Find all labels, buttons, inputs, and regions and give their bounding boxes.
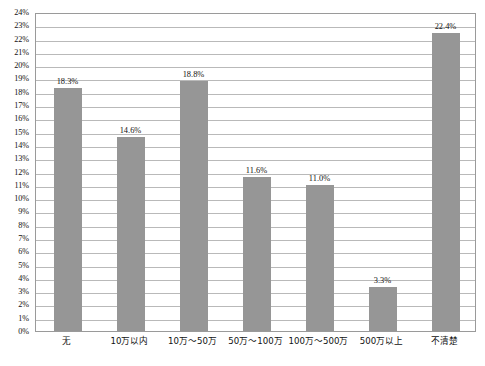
- x-axis-tick-label: 10万以内: [111, 336, 149, 347]
- bar-group: 3.3%: [351, 14, 414, 331]
- y-axis-tick-label: 14%: [14, 142, 29, 150]
- y-axis-tick-label: 24%: [14, 9, 29, 17]
- y-axis-tick-label: 10%: [14, 195, 29, 203]
- y-axis: 24%23%22%21%20%19%18%17%16%15%14%13%12%1…: [0, 13, 32, 332]
- bar[interactable]: [306, 185, 334, 331]
- y-axis-tick-label: 1%: [18, 315, 29, 323]
- y-axis-tick-label: 21%: [14, 49, 29, 57]
- bar-value-label: 18.3%: [57, 77, 79, 86]
- y-axis-tick-label: 3%: [18, 288, 29, 296]
- y-axis-tick-label: 12%: [14, 169, 29, 177]
- y-axis-tick-label: 4%: [18, 275, 29, 283]
- y-axis-tick-label: 16%: [14, 115, 29, 123]
- y-axis-tick-label: 11%: [15, 182, 29, 190]
- y-axis-tick-label: 17%: [14, 102, 29, 110]
- y-axis-tick-label: 0%: [18, 328, 29, 336]
- y-axis-tick-label: 23%: [14, 22, 29, 30]
- y-axis-tick-label: 6%: [18, 248, 29, 256]
- bar-value-label: 14.6%: [120, 126, 142, 135]
- bar-group: 18.3%: [36, 14, 99, 331]
- bar[interactable]: [369, 287, 397, 331]
- bar[interactable]: [180, 81, 208, 331]
- y-axis-tick-label: 7%: [18, 235, 29, 243]
- x-axis-tick-label: 无: [62, 336, 71, 347]
- bar-value-label: 22.4%: [435, 22, 457, 31]
- bottom-caption: [0, 359, 485, 366]
- bar-group: 11.6%: [225, 14, 288, 331]
- bar-group: 18.8%: [162, 14, 225, 331]
- y-axis-tick-label: 2%: [18, 301, 29, 309]
- bar[interactable]: [432, 33, 460, 331]
- x-axis-tick-label: 50万～100万: [228, 336, 282, 347]
- y-axis-tick-label: 15%: [14, 129, 29, 137]
- bar-group: 14.6%: [99, 14, 162, 331]
- bar[interactable]: [117, 137, 145, 331]
- y-axis-tick-label: 22%: [14, 36, 29, 44]
- y-axis-tick-label: 5%: [18, 262, 29, 270]
- bar-value-label: 3.3%: [374, 276, 391, 285]
- y-axis-tick-label: 8%: [18, 222, 29, 230]
- y-axis-tick-label: 18%: [14, 89, 29, 97]
- y-axis-tick-label: 20%: [14, 62, 29, 70]
- x-axis: 无10万以内10万～50万50万～100万100万～500万500万以上不清楚: [35, 336, 476, 356]
- bar[interactable]: [243, 177, 271, 331]
- x-axis-tick-label: 不清楚: [431, 336, 458, 347]
- bar-group: 22.4%: [414, 14, 477, 331]
- bar-chart: 24%23%22%21%20%19%18%17%16%15%14%13%12%1…: [0, 0, 485, 366]
- bar[interactable]: [54, 88, 82, 331]
- plot-area: 18.3%14.6%18.8%11.6%11.0%3.3%22.4%: [35, 13, 476, 332]
- y-axis-tick-label: 13%: [14, 155, 29, 163]
- bar-value-label: 18.8%: [183, 70, 205, 79]
- bar-value-label: 11.6%: [246, 166, 267, 175]
- bar-group: 11.0%: [288, 14, 351, 331]
- x-axis-tick-label: 10万～50万: [168, 336, 217, 347]
- y-axis-tick-label: 9%: [18, 208, 29, 216]
- bars-layer: 18.3%14.6%18.8%11.6%11.0%3.3%22.4%: [36, 14, 475, 331]
- x-axis-tick-label: 100万～500万: [289, 336, 349, 347]
- y-axis-tick-label: 19%: [14, 75, 29, 83]
- bar-value-label: 11.0%: [309, 174, 330, 183]
- x-axis-tick-label: 500万以上: [360, 336, 403, 347]
